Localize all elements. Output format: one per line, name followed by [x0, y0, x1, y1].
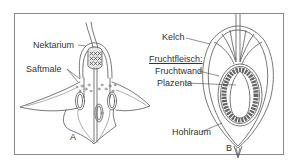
label-fruchtwand: Fruchtwand: [155, 66, 202, 76]
label-kelch: Kelch: [162, 32, 185, 42]
fruit-drawing: [203, 14, 274, 158]
panel-label-b: B: [226, 143, 232, 153]
label-nektarium: Nektarium: [33, 40, 74, 50]
label-fruchtfleisch: Fruchtfleisch:: [149, 54, 203, 64]
label-plazenta: Plazenta: [157, 78, 192, 88]
panel-label-a: A: [70, 132, 76, 142]
label-saftmale: Saftmale: [26, 64, 62, 74]
botanical-diagram: [0, 0, 297, 167]
label-hohlraum: Hohlraum: [172, 127, 211, 137]
